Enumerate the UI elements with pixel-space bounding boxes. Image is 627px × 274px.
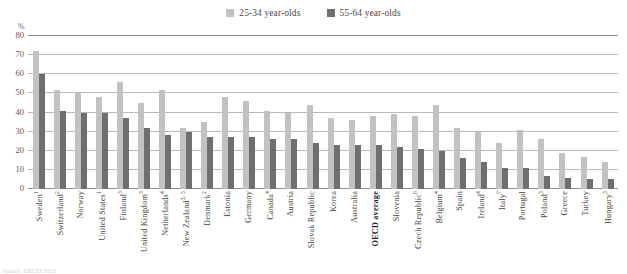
x-label-footnote-mark: 6 xyxy=(412,191,418,194)
x-label-cell: Slovenia xyxy=(386,191,407,263)
x-label-cell: Switzerland2 xyxy=(49,191,70,263)
bar-group xyxy=(28,36,49,189)
bar-group xyxy=(471,36,492,189)
x-label-cell: New Zealand3, 5 xyxy=(176,191,197,263)
bar-old xyxy=(418,149,424,189)
x-axis-label: Denmark2 xyxy=(202,191,212,226)
x-axis-label: Greece xyxy=(561,191,569,215)
x-axis-label: United States1 xyxy=(97,191,107,241)
x-axis-label: Turkey xyxy=(582,191,590,216)
x-axis-label: OECD average xyxy=(372,191,380,246)
x-axis-label: Slovak Republic xyxy=(308,191,316,248)
bar-old xyxy=(144,128,150,189)
bar-old xyxy=(355,145,361,189)
legend-item-old: 55-64 year-olds xyxy=(327,8,401,18)
x-label-footnote-mark: 4 xyxy=(475,191,481,194)
legend-swatch-old xyxy=(327,9,335,17)
x-label-cell: Sweden1 xyxy=(28,191,49,263)
x-label-cell: Greece xyxy=(555,191,576,263)
chart-footnote: Source: OECD 2012 xyxy=(2,267,56,274)
bar-old xyxy=(207,137,213,189)
bar-group xyxy=(70,36,91,189)
bar-group xyxy=(154,36,175,189)
x-axis-label: Poland3 xyxy=(539,191,549,218)
x-label-cell: Netherlands4 xyxy=(154,191,175,263)
bar-old xyxy=(481,162,487,189)
legend-label-old: 55-64 year-olds xyxy=(340,8,401,18)
bar-group xyxy=(576,36,597,189)
bar-group xyxy=(281,36,302,189)
bar-group xyxy=(91,36,112,189)
x-label-footnote-mark: 2 xyxy=(54,191,60,194)
bar-old xyxy=(334,145,340,189)
x-label-cell: Korea xyxy=(323,191,344,263)
bar-group xyxy=(197,36,218,189)
x-label-cell: Italy7 xyxy=(492,191,513,263)
bar-old xyxy=(587,179,593,189)
bar-old xyxy=(81,113,87,190)
x-axis-label: New Zealand3, 5 xyxy=(181,191,191,246)
legend-item-young: 25-34 year-olds xyxy=(226,8,300,18)
y-tick-label-40: 40 xyxy=(16,107,25,117)
x-label-footnote-mark: 3 xyxy=(138,191,144,194)
bar-group xyxy=(597,36,618,189)
bar-old xyxy=(228,137,234,189)
x-label-footnote-mark: 4 xyxy=(433,191,439,194)
x-label-cell: Australia xyxy=(344,191,365,263)
x-label-footnote-mark: 3 xyxy=(538,191,544,194)
bar-old xyxy=(249,137,255,189)
x-label-cell: United Kingdom3 xyxy=(133,191,154,263)
x-axis-label: Estonia xyxy=(224,191,232,217)
y-tick-label-10: 10 xyxy=(16,164,25,174)
x-label-footnote-mark: 4 xyxy=(264,191,270,194)
bar-group xyxy=(365,36,386,189)
x-label-cell: Portugal xyxy=(513,191,534,263)
bar-group xyxy=(176,36,197,189)
x-axis-label: Hungary3 xyxy=(603,191,613,224)
bar-old xyxy=(165,135,171,189)
x-label-cell: Belgium4 xyxy=(428,191,449,263)
bar-group xyxy=(133,36,154,189)
x-axis-label: Belgium4 xyxy=(434,191,444,224)
bar-old xyxy=(439,151,445,189)
bar-old xyxy=(291,139,297,189)
x-label-cell: Spain xyxy=(450,191,471,263)
x-axis-label: Spain xyxy=(456,191,464,211)
x-axis-label: Slovenia xyxy=(393,191,401,221)
x-axis-label: Korea xyxy=(330,191,338,212)
x-axis-label: Portugal xyxy=(519,191,527,220)
x-axis-label: Czech Republic6 xyxy=(413,191,423,249)
y-tick-label-80: 80 xyxy=(16,30,25,40)
x-label-cell: OECD average xyxy=(365,191,386,263)
bar-group xyxy=(344,36,365,189)
x-label-cell: Germany xyxy=(239,191,260,263)
bar-old xyxy=(608,179,614,189)
x-label-cell: Denmark2 xyxy=(197,191,218,263)
x-label-cell: Estonia xyxy=(218,191,239,263)
x-label-footnote-mark: 1 xyxy=(33,191,39,194)
bar-old xyxy=(102,113,108,190)
x-label-footnote-mark: 3, 5 xyxy=(180,191,186,200)
bar-old xyxy=(376,145,382,189)
x-label-footnote-mark: 2 xyxy=(201,191,207,194)
x-label-footnote-mark: 3 xyxy=(602,191,608,194)
bar-old xyxy=(565,178,571,189)
x-axis-label: Germany xyxy=(245,191,253,223)
bar-old xyxy=(39,74,45,189)
bars-layer xyxy=(28,36,618,189)
bar-old xyxy=(60,111,66,189)
bar-group xyxy=(260,36,281,189)
x-label-cell: Poland3 xyxy=(534,191,555,263)
legend-swatch-young xyxy=(226,9,234,17)
x-label-cell: Norway xyxy=(70,191,91,263)
y-tick-label-20: 20 xyxy=(16,145,25,155)
bar-old xyxy=(123,118,129,189)
x-axis-label: Italy7 xyxy=(497,191,507,210)
x-label-cell: Canada4 xyxy=(260,191,281,263)
x-label-cell: Finland3 xyxy=(112,191,133,263)
x-axis-label: Switzerland2 xyxy=(55,191,65,235)
x-label-footnote-mark: 1 xyxy=(96,191,102,194)
x-label-cell: Czech Republic6 xyxy=(407,191,428,263)
bar-group xyxy=(323,36,344,189)
x-label-footnote-mark: 3 xyxy=(117,191,123,194)
